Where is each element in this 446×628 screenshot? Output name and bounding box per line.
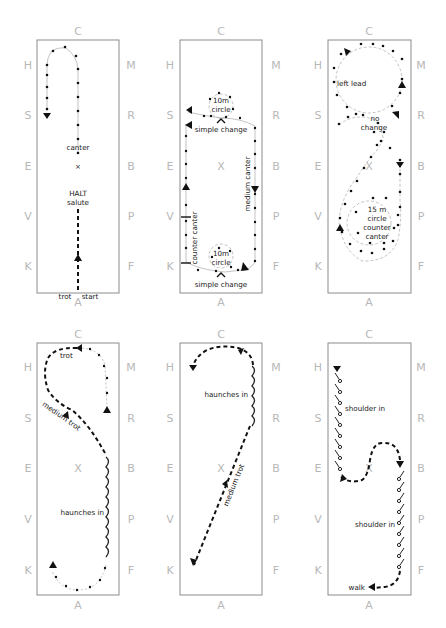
letter-p: P	[273, 210, 280, 223]
letter-s: S	[315, 109, 322, 122]
letter-c: C	[365, 25, 373, 38]
label-simple-change-top: simple change	[195, 125, 248, 134]
letter-v: V	[314, 210, 322, 223]
letter-m: M	[271, 361, 281, 374]
label-15m: 15 m	[368, 205, 386, 214]
letter-k: K	[314, 260, 322, 273]
label-trot: trot	[59, 292, 72, 301]
label-medium-canter: medium canter	[243, 156, 252, 211]
letter-f: F	[273, 564, 279, 577]
arena-panel-3: C A H S E V K M R B P F X	[314, 25, 426, 309]
letter-r: R	[417, 412, 425, 425]
label-circle-top: circle	[211, 105, 231, 114]
letter-k: K	[166, 564, 174, 577]
letter-v: V	[166, 210, 174, 223]
letter-p: P	[418, 513, 425, 526]
letter-c: C	[217, 25, 225, 38]
label-no: no	[371, 114, 380, 123]
letter-r: R	[127, 109, 135, 122]
letter-p: P	[418, 210, 425, 223]
letter-a: A	[217, 599, 225, 612]
letter-r: R	[127, 412, 135, 425]
label-start: start	[82, 292, 99, 301]
letter-e: E	[25, 160, 32, 173]
letter-h: H	[24, 361, 32, 374]
letter-s: S	[167, 109, 174, 122]
label-10m-bottom: 10m	[213, 249, 229, 258]
letter-p: P	[273, 513, 280, 526]
letter-r: R	[417, 109, 425, 122]
letter-b: B	[127, 462, 135, 475]
letter-s: S	[25, 412, 32, 425]
label-circle: circle	[367, 214, 387, 223]
letter-r: R	[272, 109, 280, 122]
label-simple-change-bottom: simple change	[195, 280, 248, 289]
label-change: change	[361, 123, 388, 132]
letter-p: P	[128, 210, 135, 223]
letter-m: M	[416, 59, 426, 72]
letter-h: H	[166, 59, 174, 72]
letter-a: A	[365, 599, 373, 612]
label-salute: salute	[67, 198, 90, 207]
letter-m: M	[126, 361, 136, 374]
letter-r: R	[272, 412, 280, 425]
letter-c: C	[217, 328, 225, 341]
label-canter: canter	[66, 143, 89, 152]
letter-c: C	[74, 328, 82, 341]
letter-s: S	[315, 412, 322, 425]
letter-b: B	[417, 160, 425, 173]
letter-k: K	[24, 564, 32, 577]
x-marker-icon: ×	[75, 163, 81, 171]
label-10m-top: 10m	[213, 96, 229, 105]
letter-v: V	[24, 513, 32, 526]
letter-c: C	[74, 25, 82, 38]
label-walk: walk	[349, 583, 366, 592]
letter-a: A	[217, 296, 225, 309]
letter-f: F	[418, 564, 424, 577]
letter-h: H	[314, 59, 322, 72]
letter-b: B	[272, 462, 280, 475]
letter-f: F	[418, 260, 424, 273]
letter-f: F	[128, 564, 134, 577]
letter-e: E	[167, 462, 174, 475]
letter-x: X	[365, 160, 373, 173]
letter-f: F	[128, 260, 134, 273]
letter-s: S	[167, 412, 174, 425]
label-circle-bottom: circle	[211, 258, 231, 267]
arena-panel-2: C A H S E V K M R B P F X	[166, 25, 281, 309]
label-canter: canter	[365, 232, 388, 241]
letter-e: E	[315, 462, 322, 475]
letter-a: A	[74, 599, 82, 612]
label-left-lead: left lead	[337, 79, 366, 88]
arena-panel-1: C A H S E V K M R B P F canter × HALT sa…	[24, 25, 136, 309]
label-shoulder-in-top: shoulder in	[345, 404, 385, 413]
arena-panel-5: C A H S E V K M R B P F X haunches in me…	[166, 328, 281, 612]
letter-h: H	[24, 59, 32, 72]
letter-v: V	[314, 513, 322, 526]
letter-e: E	[167, 160, 174, 173]
letter-p: P	[128, 513, 135, 526]
letter-v: V	[24, 210, 32, 223]
dressage-test-diagrams: C A H S E V K M R B P F canter × HALT sa…	[0, 0, 446, 628]
letter-c: C	[365, 328, 373, 341]
letter-h: H	[314, 361, 322, 374]
letter-x: X	[74, 462, 82, 475]
letter-h: H	[166, 361, 174, 374]
letter-a: A	[365, 296, 373, 309]
label-haunches-in: haunches in	[204, 390, 248, 399]
letter-k: K	[314, 564, 322, 577]
letter-b: B	[272, 160, 280, 173]
label-trot: trot	[60, 351, 73, 360]
label-shoulder-in-bottom: shoulder in	[355, 520, 395, 529]
letter-b: B	[127, 160, 135, 173]
letter-f: F	[273, 260, 279, 273]
label-counter: counter	[363, 223, 391, 232]
letter-k: K	[24, 260, 32, 273]
letter-k: K	[166, 260, 174, 273]
letter-m: M	[271, 59, 281, 72]
letter-v: V	[166, 513, 174, 526]
letter-e: E	[25, 462, 32, 475]
letter-e: E	[315, 160, 322, 173]
letter-x: X	[217, 462, 225, 475]
label-counter-canter: counter canter	[190, 211, 199, 264]
